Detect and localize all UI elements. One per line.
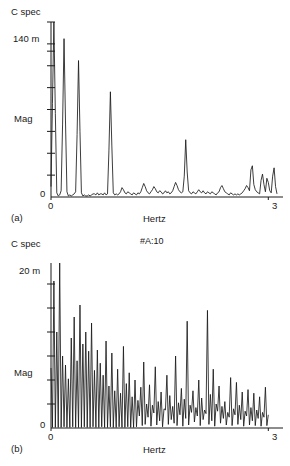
panel-a-caption: (a) xyxy=(11,212,23,223)
spectrum-panel-b xyxy=(0,233,290,466)
figure-annotation: #A:10 xyxy=(140,236,164,247)
panel-b-caption: (b) xyxy=(11,443,23,454)
panel-b-x-min-label: 0 xyxy=(48,431,53,442)
panel-a-y-zero-label: 0 xyxy=(40,188,45,199)
panel-a-x-min-label: 0 xyxy=(48,200,53,211)
panel-a-x-axis-label: Hertz xyxy=(143,213,166,224)
panel-b-x-axis-label: Hertz xyxy=(143,444,166,455)
panel-b-y-max-label: 20 m xyxy=(19,265,40,276)
panel-a-x-max-label: 3 xyxy=(272,200,277,211)
panel-b-plot xyxy=(0,233,290,466)
panel-a-y-max-label: 140 m xyxy=(13,33,39,44)
spectrum-panel-a: C spec 140 m Mag 0 0 3 Hertz (a) xyxy=(0,0,290,233)
panel-b-x-max-label: 3 xyxy=(272,431,277,442)
panel-a-y-title: C spec xyxy=(11,6,41,17)
panel-b-y-axis-label: Mag xyxy=(14,367,32,378)
panel-b-y-zero-label: 0 xyxy=(40,419,45,430)
panel-a-y-axis-label: Mag xyxy=(14,113,32,124)
panel-b-y-title: C spec xyxy=(11,238,41,249)
